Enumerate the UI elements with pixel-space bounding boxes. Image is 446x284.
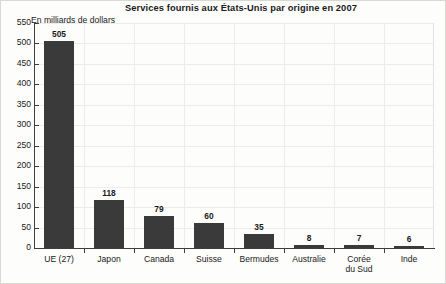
bar-value-label: 118 [84,189,134,197]
y-axis-tick-label-wrap: 100 [1,202,31,212]
x-axis-category-label-line: Inde [384,254,434,264]
x-axis-tick [184,249,185,253]
bar [394,246,424,248]
x-axis-category-label: Canada [134,254,184,264]
y-axis-tick-label-wrap: 300 [1,120,31,130]
x-axis-category-label: Australie [284,254,334,264]
x-axis-category-label-line: Canada [134,254,184,264]
x-axis-tick [384,249,385,253]
bar [144,216,174,248]
y-axis-tick-label: 500 [5,38,31,47]
x-axis-category-label: Suisse [184,254,234,264]
x-axis-category-label: Bermudes [234,254,284,264]
y-axis-tick-label: 200 [5,161,31,170]
bar [194,223,224,248]
y-axis-tick [35,248,39,249]
x-axis-category-label-line: Suisse [184,254,234,264]
bar [294,245,324,248]
y-axis-tick-label-wrap: 200 [1,161,31,171]
x-axis-tick [334,249,335,253]
y-axis-tick-label: 250 [5,141,31,150]
x-axis-category-label-line: Bermudes [234,254,284,264]
x-axis-tick [234,249,235,253]
x-axis-category-label: Inde [384,254,434,264]
y-axis-tick-label: 150 [5,182,31,191]
x-axis-category-label-line: Corée [334,254,384,264]
y-axis-tick-label: 0 [5,243,31,252]
bar [244,234,274,248]
y-axis-tick-label: 100 [5,202,31,211]
bar-value-label: 35 [234,223,284,231]
bar-value-label: 8 [284,234,334,242]
bar-value-label: 7 [334,234,384,242]
chart-title: Services fournis aux États-Unis par orig… [125,3,435,13]
y-axis-tick-label-wrap: 500 [1,38,31,48]
x-axis-category-label: Coréedu Sud [334,254,384,274]
x-axis-category-label: UE (27) [34,254,84,264]
y-axis-tick-label: 300 [5,120,31,129]
y-axis-tick-label-wrap: 350 [1,100,31,110]
y-axis-tick-label-wrap: 400 [1,79,31,89]
chart-figure: Services fournis aux États-Unis par orig… [0,0,446,284]
y-axis-tick-label: 450 [5,59,31,68]
bars-layer [34,23,434,248]
y-axis-tick-label-wrap: 450 [1,59,31,69]
y-axis-tick-label: 50 [5,223,31,232]
x-axis-category-label-line: Australie [284,254,334,264]
y-axis-tick-label-wrap: 50 [1,223,31,233]
x-axis-category-label: Japon [84,254,134,264]
x-axis-category-label-line: Japon [84,254,134,264]
bar-value-label: 6 [384,235,434,243]
bar-value-label: 79 [134,205,184,213]
x-axis-category-label-line: du Sud [334,264,384,274]
y-axis-tick-label: 400 [5,79,31,88]
y-axis-tick-label-wrap: 250 [1,141,31,151]
y-axis-tick-label-wrap: 0 [1,243,31,253]
bar-value-label: 60 [184,212,234,220]
bar [44,41,74,248]
y-axis-tick-label: 550 [5,18,31,27]
x-axis-tick [84,249,85,253]
bar [94,200,124,248]
x-axis-tick [134,249,135,253]
x-axis-category-label-line: UE (27) [34,254,84,264]
y-axis-tick-label-wrap: 550 [1,18,31,28]
y-axis-tick-label-wrap: 150 [1,182,31,192]
bar-value-label: 505 [34,30,84,38]
bar [344,245,374,248]
y-axis-tick-label: 350 [5,100,31,109]
x-axis-tick [284,249,285,253]
